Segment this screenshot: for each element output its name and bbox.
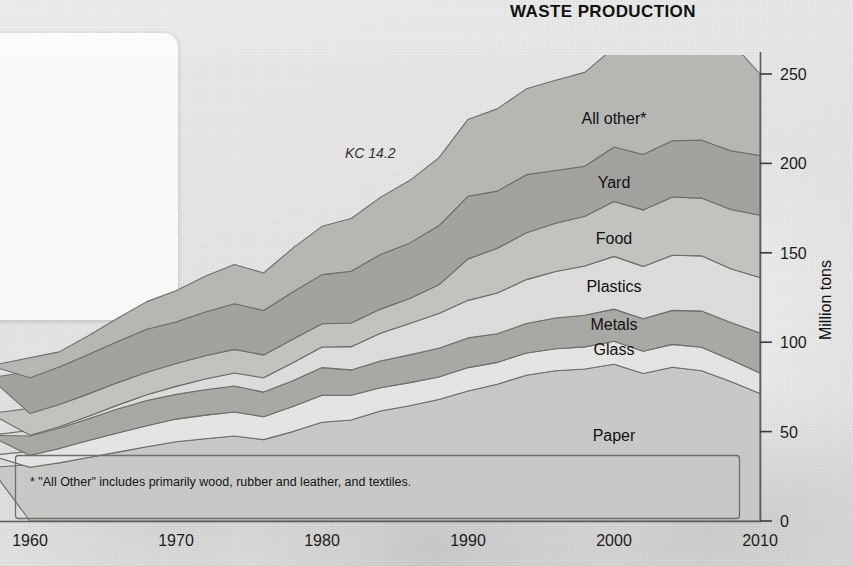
waste-production-chart: 050100150200250 196019701980199020002010… xyxy=(0,0,853,566)
series-label-plastics: Plastics xyxy=(586,278,641,295)
series-label-yard: Yard xyxy=(598,174,631,191)
stacked-area-bands xyxy=(0,33,760,521)
y-tick-label-100: 100 xyxy=(780,334,807,351)
y-tick-label-250: 250 xyxy=(780,66,807,83)
x-tick-label-1980: 1980 xyxy=(304,532,340,549)
y-axis-ticks: 050100150200250 xyxy=(760,66,807,530)
x-axis-ticks: 196019701980199020002010 xyxy=(12,532,778,549)
y-tick-label-200: 200 xyxy=(780,155,807,172)
x-tick-label-1960: 1960 xyxy=(12,532,48,549)
y-tick-label-50: 50 xyxy=(780,424,798,441)
y-tick-label-150: 150 xyxy=(780,245,807,262)
x-tick-label-2000: 2000 xyxy=(596,532,632,549)
series-label-all-other: All other* xyxy=(582,110,647,127)
x-tick-label-1990: 1990 xyxy=(450,532,486,549)
x-tick-label-1970: 1970 xyxy=(158,532,194,549)
kc-annotation: KC 14.2 xyxy=(345,145,396,161)
series-label-food: Food xyxy=(596,230,632,247)
series-label-paper: Paper xyxy=(593,427,636,444)
series-label-glass: Glass xyxy=(594,341,635,358)
series-label-metals: Metals xyxy=(590,316,637,333)
footnote-text: * "All Other" includes primarily wood, r… xyxy=(30,475,411,489)
y-axis-title: Million tons xyxy=(817,260,834,340)
y-tick-label-0: 0 xyxy=(780,513,789,530)
x-tick-label-2010: 2010 xyxy=(742,532,778,549)
